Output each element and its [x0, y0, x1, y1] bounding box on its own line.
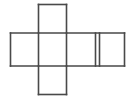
- cube-net-figure: [0, 0, 137, 100]
- canvas-background: [0, 0, 137, 100]
- cube-net-drawing: [0, 0, 137, 100]
